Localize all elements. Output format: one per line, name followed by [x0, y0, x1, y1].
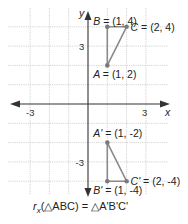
x-axis-label: x	[164, 106, 171, 118]
point-a-prime	[105, 140, 110, 145]
y-tick-label: -3	[76, 157, 84, 168]
point-coordinates: = (2, 4)	[141, 21, 175, 33]
point-name: C	[131, 21, 142, 33]
point-a	[105, 63, 110, 68]
caption-rest: (△ABC) = △A'B'C'	[41, 200, 128, 212]
point-name: A	[92, 68, 103, 80]
axes: x y	[10, 7, 171, 197]
point-coordinates: = (1, -2)	[105, 127, 142, 139]
point-c-prime	[124, 179, 129, 184]
point-name: C'	[131, 175, 144, 187]
x-axis-left-arrow-icon	[10, 101, 20, 108]
point-label-a: A = (1, 2)	[92, 68, 136, 80]
point-name: B	[93, 15, 103, 27]
point-name: B'	[93, 184, 105, 196]
point-coordinates: = (2, -4)	[143, 175, 180, 187]
point-label-c-prime: C' = (2, -4)	[131, 175, 181, 187]
y-axis-down-arrow-icon	[85, 188, 92, 197]
y-tick-label: 3	[79, 41, 84, 52]
x-tick-label: -3	[26, 107, 34, 118]
x-tick-label: 3	[142, 107, 147, 118]
point-coordinates: = (1, 2)	[103, 68, 137, 80]
point-label-a-prime: A' = (1, -2)	[92, 127, 142, 139]
point-b-prime	[105, 179, 110, 184]
reflection-caption: rx(△ABC) = △A'B'C'	[33, 200, 128, 215]
y-axis-up-arrow-icon	[85, 11, 92, 20]
coordinate-plane-diagram: x y -333-3 A = (1, 2)B = (1, 4)C = (2, 4…	[0, 0, 188, 224]
y-axis-label: y	[78, 7, 85, 19]
point-name: A'	[92, 127, 105, 139]
point-label-c: C = (2, 4)	[131, 21, 175, 33]
